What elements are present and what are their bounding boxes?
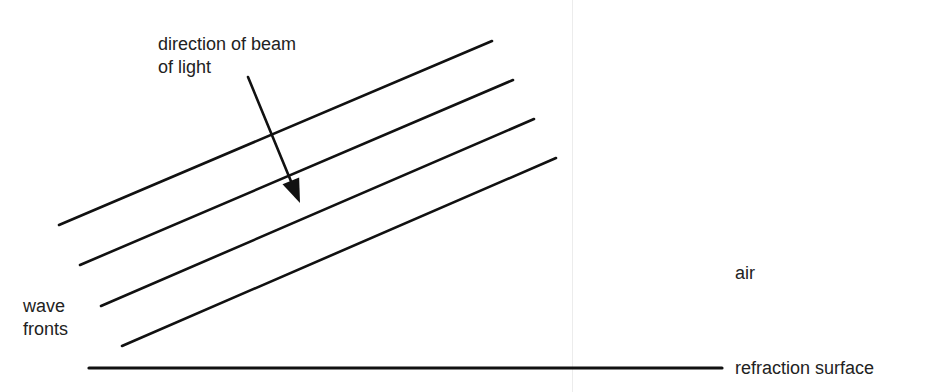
refraction-diagram — [0, 0, 947, 392]
beam-direction-label-line1: direction of beam — [158, 33, 296, 56]
arrow-head-icon — [283, 177, 300, 203]
wave-fronts-label-line2: fronts — [23, 318, 68, 341]
wave-front-line — [122, 158, 556, 346]
beam-direction-label-line2: of light — [158, 56, 211, 79]
medium-label-air: air — [735, 262, 755, 285]
wave-front-line — [59, 41, 492, 225]
wave-front-line — [101, 119, 534, 306]
wave-front-line — [80, 80, 513, 265]
wave-fronts — [59, 41, 556, 346]
refraction-surface-label: refraction surface — [735, 357, 874, 380]
wave-fronts-label-line1: wave — [23, 295, 65, 318]
